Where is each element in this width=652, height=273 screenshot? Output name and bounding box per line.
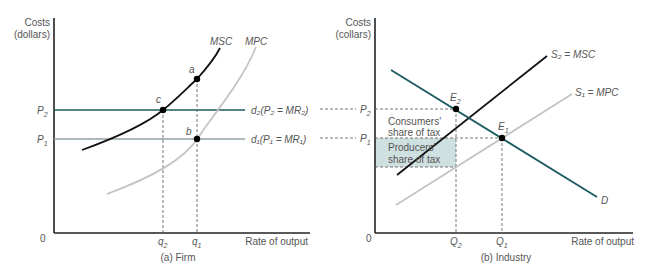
point-b-label: b — [186, 126, 192, 137]
consumers-share-line2: share of tax — [388, 127, 440, 138]
panel-a-firm: Costs (dollars) MSC MPC a c b P2 P1 d₂(P… — [14, 17, 310, 263]
point-b — [194, 136, 200, 142]
panel-a-x-label: Rate of output — [245, 236, 308, 247]
panel-a-y-label-2: (dollars) — [14, 29, 50, 40]
panel-a-p2-label: P2 — [37, 105, 48, 118]
panel-b-p2-label: P2 — [360, 104, 371, 117]
point-c-label: c — [156, 94, 161, 105]
producers-share-line1: Producers' — [388, 142, 436, 153]
e1-label: E1 — [498, 121, 509, 134]
point-e2 — [453, 106, 459, 112]
d1-label: d₁(P₁ = MR₁) — [251, 134, 306, 145]
point-a — [194, 76, 200, 82]
panel-a-origin: 0 — [40, 233, 46, 244]
s2-label: S₂ = MSC — [551, 49, 596, 60]
panel-b-origin: 0 — [366, 233, 372, 244]
producers-share-line2: share of tax — [388, 154, 440, 165]
panel-a-q2-label: q2 — [158, 236, 168, 249]
externality-diagram: Costs (dollars) MSC MPC a c b P2 P1 d₂(P… — [0, 0, 652, 273]
e2-label: E2 — [450, 92, 461, 105]
panel-a-q1-label: q1 — [192, 236, 202, 249]
panel-b-y-label-2: (collars) — [335, 29, 371, 40]
panel-b-x-label: Rate of output — [571, 236, 634, 247]
point-e1 — [499, 135, 505, 141]
point-a-label: a — [189, 64, 195, 75]
panel-a-y-label-1: Costs — [24, 17, 50, 28]
mpc-curve — [107, 47, 256, 194]
panel-b-q1-label: Q1 — [496, 236, 508, 249]
msc-label: MSC — [210, 36, 233, 47]
panel-b-y-label-1: Costs — [345, 17, 371, 28]
point-c — [160, 107, 166, 113]
s1-label: S₁ = MPC — [575, 87, 619, 98]
panel-b-q2-label: Q2 — [450, 236, 462, 249]
mpc-label: MPC — [245, 36, 268, 47]
panel-a-caption: (a) Firm — [161, 252, 196, 263]
panel-b-industry: Costs (collars) Consumers' share of tax … — [320, 17, 634, 263]
consumers-share-line1: Consumers' — [388, 116, 441, 127]
panel-a-p1-label: P1 — [37, 134, 48, 147]
panel-b-caption: (b) Industry — [481, 252, 532, 263]
demand-label: D — [601, 195, 608, 206]
d2-label: d₂(P₂ = MR₂) — [251, 105, 308, 116]
panel-b-p1-label: P1 — [360, 133, 371, 146]
